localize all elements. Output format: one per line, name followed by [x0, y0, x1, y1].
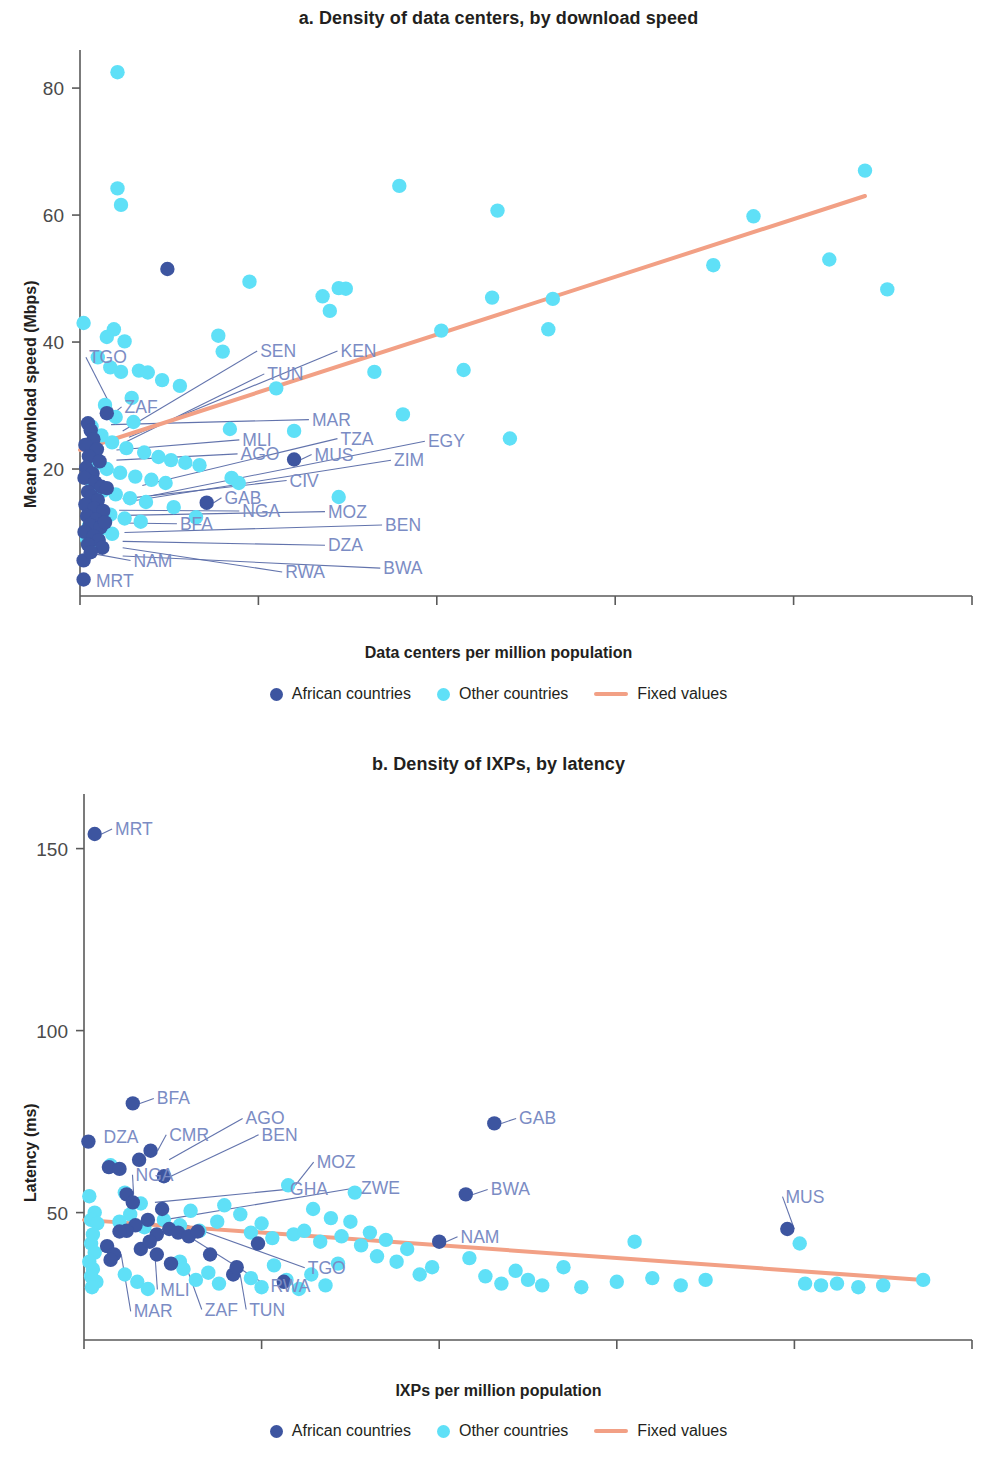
- series-other-countries: [76, 65, 894, 551]
- x-tick-label: 0.4: [426, 1359, 453, 1360]
- y-tick-label: 40: [43, 332, 64, 353]
- data-point: [462, 1251, 476, 1265]
- data-point: [88, 827, 102, 841]
- data-point: [367, 365, 381, 379]
- data-point: [143, 1144, 157, 1158]
- annotation-leader-line: [123, 351, 258, 431]
- point-label-cmr: CMR: [169, 1125, 209, 1145]
- leader-lines: [102, 829, 795, 1311]
- data-point: [876, 1278, 890, 1292]
- data-point: [167, 500, 181, 514]
- data-point: [851, 1280, 865, 1294]
- data-point: [287, 424, 301, 438]
- data-point: [98, 515, 112, 529]
- data-point: [432, 1235, 446, 1249]
- x-tick-label: 2: [253, 615, 264, 616]
- point-label-mli: MLI: [160, 1280, 189, 1300]
- data-point: [490, 203, 504, 217]
- data-point: [306, 1202, 320, 1216]
- data-point: [189, 1273, 203, 1287]
- point-label-nam: NAM: [461, 1227, 500, 1247]
- data-point: [113, 466, 127, 480]
- legend-line-fixed-icon: [594, 692, 628, 696]
- data-point: [110, 181, 124, 195]
- legend-item-fixed-b: Fixed values: [594, 1422, 727, 1440]
- trend-line-fixed-values: [80, 196, 865, 450]
- annotation-leader-line: [124, 512, 325, 516]
- point-label-mrt: MRT: [96, 571, 134, 591]
- data-point: [698, 1273, 712, 1287]
- annotation-labels: MRTBFADZACMRAGOBENMOZNGAGHAZWEGABBWAMUSN…: [104, 819, 825, 1321]
- point-label-gha: GHA: [290, 1179, 328, 1199]
- data-point: [354, 1238, 368, 1252]
- panel-a-x-axis-title: Data centers per million population: [0, 644, 997, 662]
- data-point: [706, 258, 720, 272]
- data-point: [216, 344, 230, 358]
- point-label-zaf: ZAF: [125, 397, 158, 417]
- data-point: [118, 1267, 132, 1281]
- data-point: [487, 1116, 501, 1130]
- data-point: [425, 1260, 439, 1274]
- data-point: [858, 163, 872, 177]
- data-point: [139, 495, 153, 509]
- data-point: [508, 1264, 522, 1278]
- point-label-zwe: ZWE: [361, 1178, 400, 1198]
- point-label-zim: ZIM: [394, 450, 424, 470]
- data-point: [223, 422, 237, 436]
- legend-item-fixed: Fixed values: [594, 685, 727, 703]
- annotation-leader-line: [151, 441, 425, 496]
- data-point: [141, 1282, 155, 1296]
- point-label-ago: AGO: [241, 444, 280, 464]
- x-tick-label: 1: [967, 1359, 978, 1360]
- point-label-bfa: BFA: [157, 1088, 190, 1108]
- legend-item-african: African countries: [270, 685, 411, 703]
- data-point: [324, 1211, 338, 1225]
- data-point: [191, 1224, 205, 1238]
- point-label-tun: TUN: [267, 364, 303, 384]
- data-point: [200, 496, 214, 510]
- annotation-leader-line: [116, 440, 239, 450]
- data-point: [348, 1185, 362, 1199]
- legend-label-other: Other countries: [459, 685, 568, 703]
- legend-label-fixed-b: Fixed values: [637, 1422, 727, 1440]
- y-tick-label: 20: [43, 459, 64, 480]
- data-point: [158, 476, 172, 490]
- point-label-bfa: BFA: [180, 514, 213, 534]
- data-point: [76, 572, 90, 586]
- data-point: [494, 1276, 508, 1290]
- y-tick-label: 150: [36, 839, 68, 860]
- data-point: [183, 1204, 197, 1218]
- point-label-tgo: TGO: [308, 1258, 346, 1278]
- data-point: [144, 473, 158, 487]
- data-point: [535, 1278, 549, 1292]
- y-tick-label: 80: [43, 78, 64, 99]
- data-point: [112, 1162, 126, 1176]
- annotation-leader-line: [140, 1098, 154, 1103]
- data-point: [389, 1255, 403, 1269]
- point-label-nga: NGA: [242, 501, 280, 521]
- point-label-ben: BEN: [262, 1125, 298, 1145]
- panel-a: a. Density of data centers, by download …: [0, 0, 997, 730]
- data-point: [400, 1242, 414, 1256]
- data-point: [318, 1278, 332, 1292]
- data-point: [251, 1236, 265, 1250]
- data-point: [267, 1258, 281, 1272]
- legend-dot-african-icon: [270, 688, 283, 701]
- data-point: [110, 65, 124, 79]
- data-point: [822, 252, 836, 266]
- data-point: [100, 406, 114, 420]
- data-point: [521, 1273, 535, 1287]
- panel-b-title: b. Density of IXPs, by latency: [0, 754, 997, 775]
- point-label-ben: BEN: [385, 515, 421, 535]
- data-point: [315, 289, 329, 303]
- point-label-dza: DZA: [104, 1127, 139, 1147]
- point-label-mar: MAR: [134, 1301, 173, 1321]
- data-point: [485, 290, 499, 304]
- point-label-civ: CIV: [290, 471, 320, 491]
- point-label-moz: MOZ: [328, 502, 367, 522]
- data-point: [128, 469, 142, 483]
- data-point: [503, 431, 517, 445]
- data-point: [343, 1215, 357, 1229]
- data-point: [645, 1271, 659, 1285]
- data-point: [112, 1224, 126, 1238]
